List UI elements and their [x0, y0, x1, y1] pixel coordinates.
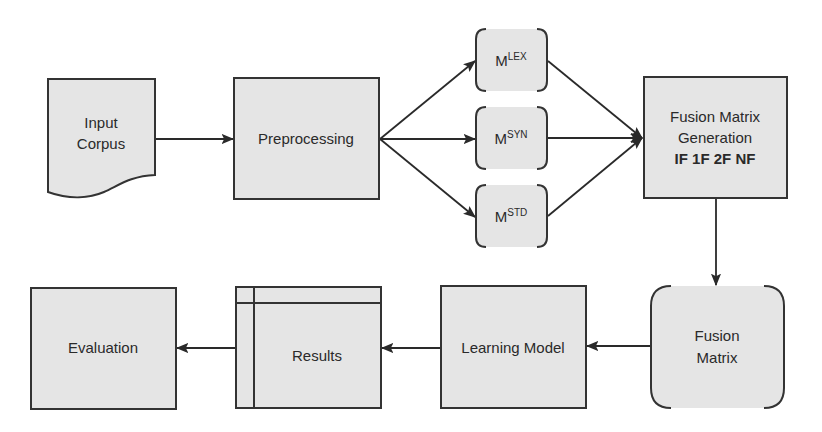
node-input-corpus: Input Corpus [48, 79, 155, 197]
edge-preprocessing-to-mlex [380, 61, 475, 139]
node-preprocessing: Preprocessing [234, 78, 379, 199]
fusion-matrix-fill [651, 286, 784, 408]
edge-mlex-to-fusion-generation [548, 61, 642, 138]
fusion-generation-line1: Fusion Matrix [670, 108, 761, 125]
node-results: Results [236, 287, 381, 408]
results-label: Results [292, 347, 342, 364]
node-fusion-matrix: Fusion Matrix [651, 286, 784, 408]
node-m-syn: MSYN [476, 107, 547, 169]
input-corpus-line1: Input [84, 114, 118, 131]
fusion-generation-line2: Generation [678, 129, 752, 146]
learning-model-label: Learning Model [461, 339, 564, 356]
preprocessing-label: Preprocessing [258, 130, 354, 147]
edge-mstd-to-fusion-generation [548, 138, 642, 216]
fusion-generation-variants: IF 1F 2F NF [675, 150, 756, 167]
pipeline-diagram: Input Corpus Preprocessing MLEX MSYN MST… [0, 0, 822, 432]
edge-preprocessing-to-mstd [380, 139, 475, 217]
fusion-matrix-line1: Fusion [694, 327, 739, 344]
node-learning-model: Learning Model [441, 286, 586, 408]
node-m-std: MSTD [476, 185, 547, 247]
node-m-lex: MLEX [476, 29, 547, 91]
input-corpus-line2: Corpus [77, 135, 125, 152]
node-fusion-matrix-generation: Fusion Matrix Generation IF 1F 2F NF [644, 77, 787, 198]
node-evaluation: Evaluation [31, 288, 176, 409]
evaluation-label: Evaluation [68, 339, 138, 356]
fusion-matrix-line2: Matrix [697, 349, 738, 366]
